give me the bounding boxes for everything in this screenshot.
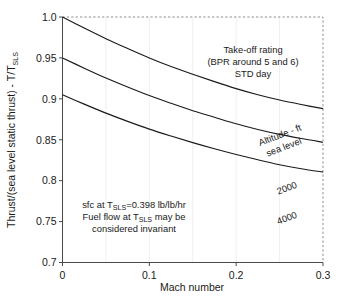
y-tick-label: 1.0 bbox=[42, 11, 57, 23]
y-tick-label: 0.8 bbox=[42, 174, 57, 186]
x-tick-label: 0.1 bbox=[142, 269, 157, 281]
x-tick-label: 0 bbox=[60, 269, 66, 281]
chart-canvas: 00.10.20.3 0.70.750.80.850.90.951.0 Mach… bbox=[0, 0, 347, 306]
sfc-note-line-1-prefix: sfc at T bbox=[82, 199, 113, 210]
annotation-sfc-note: sfc at TSLS=0.398 lb/lb/hr Fuel flow at … bbox=[82, 199, 186, 234]
figure-container: 00.10.20.3 0.70.750.80.850.90.951.0 Mach… bbox=[0, 0, 347, 306]
y-tick-label: 0.9 bbox=[42, 93, 57, 105]
y-axis-title-subscript: SLS bbox=[12, 52, 20, 66]
rating-note-line-2: (BPR around 5 and 6) bbox=[207, 56, 298, 67]
sfc-note-line-3: considered invariant bbox=[92, 223, 176, 234]
x-tick-label: 0.3 bbox=[316, 269, 331, 281]
sfc-note-line-1-suffix: =0.398 lb/lb/hr bbox=[126, 199, 186, 210]
x-axis-title: Mach number bbox=[160, 281, 225, 293]
y-tick-label: 0.7 bbox=[42, 256, 57, 268]
sfc-note-line-2-prefix: Fuel flow at T bbox=[83, 211, 139, 222]
rating-note-line-1: Take-off rating bbox=[223, 44, 282, 55]
y-tick-label: 0.75 bbox=[36, 215, 57, 227]
x-tick-label: 0.2 bbox=[229, 269, 244, 281]
y-tick-label: 0.85 bbox=[36, 134, 57, 146]
y-tick-label: 0.95 bbox=[36, 52, 57, 64]
sfc-note-line-2-suffix: may be bbox=[152, 211, 185, 222]
rating-note-line-3: STD day bbox=[235, 68, 272, 79]
y-axis-title-main: Thrust/(sea level static thrust) - T/T bbox=[5, 65, 17, 228]
